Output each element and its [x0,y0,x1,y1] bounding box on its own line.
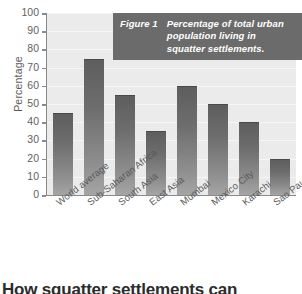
y-axis-tick: 60 [0,86,46,87]
y-axis-tick-label: 50 [27,97,39,110]
y-axis-tick-label: 10 [27,170,39,183]
x-axis-labels: World averageSub-Saharan AfricaSouth Asi… [48,196,296,276]
figure-caption-text: Percentage of total urban population liv… [167,18,296,55]
y-axis-tick-label: 40 [27,115,39,128]
y-axis-tick-mark [42,122,46,124]
y-axis-tick-label: 100 [21,6,39,19]
y-axis-tick-mark [42,68,46,70]
y-axis-tick: 80 [0,49,46,50]
y-axis-tick: 70 [0,68,46,69]
y-axis-tick-mark [42,31,46,33]
y-axis-tick: 0 [0,195,46,196]
y-axis-ticks: 1009080706050403020100 [0,0,46,210]
y-axis-tick: 30 [0,140,46,141]
bar[interactable] [208,104,228,195]
y-axis-tick-mark [42,195,46,197]
y-axis-tick: 90 [0,31,46,32]
y-axis-tick-label: 30 [27,133,39,146]
y-axis-tick-label: 60 [27,79,39,92]
y-axis-tick-label: 80 [27,42,39,55]
bar[interactable] [53,113,73,195]
y-axis-tick-label: 90 [27,24,39,37]
y-axis-tick-label: 20 [27,152,39,165]
y-axis-tick-label: 0 [33,188,39,201]
y-axis-tick-mark [42,177,46,179]
y-axis-tick-mark [42,13,46,15]
y-axis-tick-label: 70 [27,61,39,74]
y-axis-tick: 20 [0,159,46,160]
y-axis-tick: 10 [0,177,46,178]
figure-caption-box: Figure 1 Percentage of total urban popul… [113,13,302,60]
y-axis-tick-mark [42,159,46,161]
y-axis-tick: 50 [0,104,46,105]
figure-caption-label: Figure 1 [120,18,167,29]
y-axis-tick: 100 [0,13,46,14]
figure-container: Percentage 1009080706050403020100 World … [0,0,302,294]
y-axis-tick-mark [42,86,46,88]
bar-slot [48,13,79,195]
y-axis-tick-mark [42,104,46,106]
y-axis-tick: 40 [0,122,46,123]
y-axis-tick-mark [42,49,46,51]
y-axis-tick-mark [42,140,46,142]
article-headline: How squatter settlements can [2,280,302,294]
